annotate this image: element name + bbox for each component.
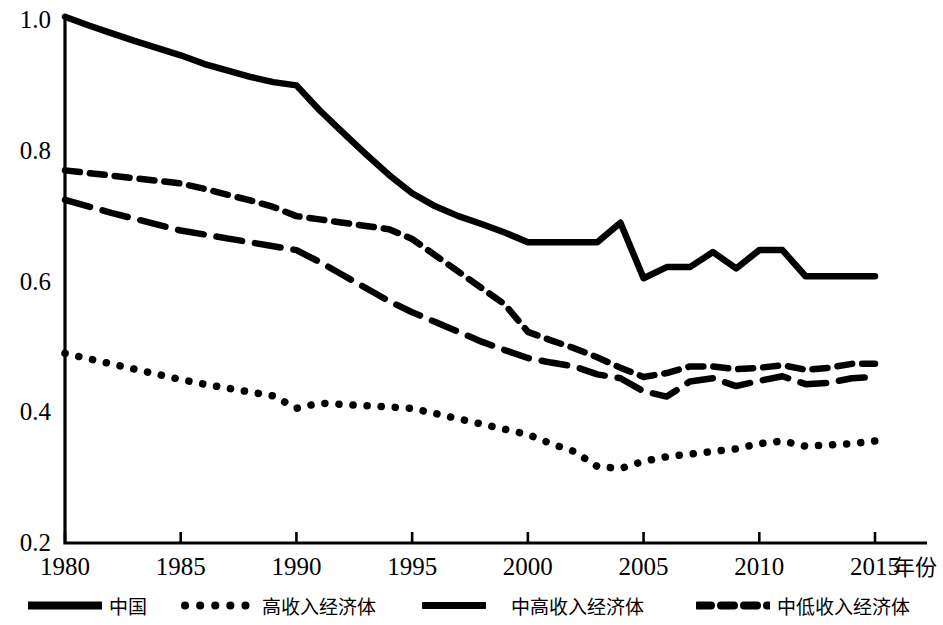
legend-label-high-income: 高收入经济体 bbox=[262, 592, 376, 619]
x-axis-title: 年份 bbox=[893, 555, 937, 580]
y-tick-label: 1.0 bbox=[20, 6, 51, 33]
series-line bbox=[65, 17, 875, 279]
legend-label-lower-middle-income: 中低收入经济体 bbox=[777, 592, 910, 619]
x-tick-label: 2000 bbox=[503, 553, 553, 580]
chart-axes bbox=[65, 14, 927, 543]
series-line bbox=[65, 170, 875, 377]
legend-item-lower-middle-income[interactable]: 中低收入经济体 bbox=[696, 592, 910, 619]
legend-label-upper-middle-income: 中高收入经济体 bbox=[511, 592, 644, 619]
y-tick-label: 0.8 bbox=[20, 137, 51, 164]
legend-swatch-dotted bbox=[181, 601, 255, 610]
x-tick-label: 1985 bbox=[156, 553, 206, 580]
x-tick-label: 1980 bbox=[40, 553, 90, 580]
chart-series bbox=[65, 17, 875, 469]
y-tick-label: 0.6 bbox=[20, 268, 51, 295]
y-tick-label: 0.2 bbox=[20, 529, 51, 556]
legend-swatch-solid-thick bbox=[422, 601, 486, 610]
legend-item-china[interactable]: 中国 bbox=[28, 592, 147, 619]
legend-label-china: 中国 bbox=[109, 592, 147, 619]
x-tick-label: 2010 bbox=[734, 553, 784, 580]
line-chart-canvas: 1.00.80.60.40.21980198519901995200020052… bbox=[0, 0, 943, 625]
chart-tick-labels: 1.00.80.60.40.21980198519901995200020052… bbox=[20, 6, 937, 580]
legend-item-high-income[interactable]: 高收入经济体 bbox=[181, 592, 376, 619]
x-tick-label: 1995 bbox=[387, 553, 437, 580]
legend-item-upper-middle-income[interactable]: 中高收入经济体 bbox=[422, 592, 644, 619]
x-tick-label: 1990 bbox=[271, 553, 321, 580]
x-tick-label: 2005 bbox=[619, 553, 669, 580]
legend-swatch-short-dash bbox=[696, 601, 770, 610]
y-tick-label: 0.4 bbox=[20, 398, 52, 425]
chart-figure: 1.00.80.60.40.21980198519901995200020052… bbox=[0, 0, 943, 625]
legend-swatch-solid bbox=[28, 601, 102, 610]
chart-legend: 中国 高收入经济体 中高收入经济体 中低收入经济体 bbox=[0, 586, 943, 625]
